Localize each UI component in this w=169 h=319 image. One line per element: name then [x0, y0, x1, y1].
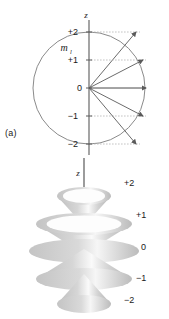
tick-label--2: −2 [68, 139, 78, 149]
panel-b-svg: z +2+10−1−2 [0, 158, 169, 319]
cone-inner-hollow [47, 215, 122, 232]
cone-inner-hollow [63, 189, 105, 203]
cone-label-+2: +2 [124, 178, 134, 188]
angular-momentum-vector--1 [89, 88, 143, 116]
cone-label--2: −2 [124, 295, 134, 305]
z-axis-label: z [83, 10, 88, 20]
angular-momentum-vector--2 [89, 88, 136, 144]
quantum-number-symbol: m [60, 42, 67, 53]
cones-group [29, 187, 139, 313]
quantum-number-subscript: l [70, 48, 72, 55]
tick-label--1: −1 [68, 111, 78, 121]
z-axis-label-panel-b: z [75, 168, 80, 178]
panel-a-vector-model: z m l +2+10−1−2 (a) [0, 0, 169, 160]
cone-label-0: 0 [141, 242, 146, 252]
cone-labels-group: +2+10−1−2 [124, 178, 146, 305]
cone-base-ellipse [57, 295, 111, 313]
vector-levels-group: +2+10−1−2 [68, 27, 146, 149]
angular-momentum-vector-+1 [89, 60, 143, 88]
cone-label--1: −1 [136, 273, 146, 283]
tick-label-0: 0 [77, 83, 82, 93]
panel-a-svg: z m l +2+10−1−2 [0, 0, 169, 160]
panel-a-caption: (a) [5, 128, 17, 138]
tick-label-+1: +1 [68, 55, 78, 65]
cone-label-+1: +1 [136, 210, 146, 220]
tick-label-+2: +2 [68, 27, 78, 37]
panel-b-cone-model: z +2+10−1−2 (b) [0, 158, 169, 319]
